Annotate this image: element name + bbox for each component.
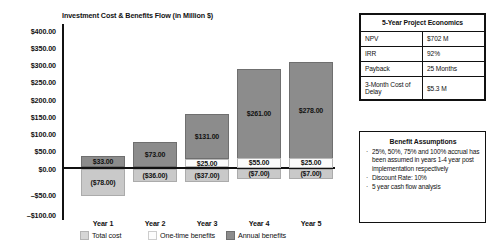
bar-segment-total-cost: ($7.00)	[289, 169, 333, 178]
bar-segment-total-cost: ($37.00)	[185, 169, 229, 182]
bar-segment-annual-benefits: $261.00	[237, 69, 281, 159]
bar-segment-annual-benefits: $131.00	[185, 114, 229, 159]
y-tick-label: $150.00	[0, 113, 56, 122]
bar-segment-one-time-benefits: $25.00	[185, 159, 229, 168]
table-cell-value: $702 M	[423, 32, 485, 47]
x-axis-label-year-2: Year 2	[126, 219, 184, 228]
bar-segment-total-cost: ($78.00)	[81, 169, 125, 196]
table-cell-key: Payback	[361, 62, 423, 77]
table-cell-value: 25 Months	[423, 62, 485, 77]
assumptions-title: Benefit Assumptions	[366, 138, 480, 145]
bar-segment-total-cost: ($7.00)	[237, 169, 281, 178]
y-tick-label: $200.00	[0, 96, 56, 105]
bar-segment-one-time-benefits: $55.00	[237, 158, 281, 168]
y-tick-label: $300.00	[0, 61, 56, 70]
y-axis-line	[62, 24, 64, 220]
x-axis-label-year-1: Year 1	[74, 219, 132, 228]
legend-swatch-one-time-benefits	[148, 231, 157, 240]
table-cell-value: 92%	[423, 47, 485, 62]
y-tick-label: $100.00	[0, 130, 56, 139]
table-cell-key: NPV	[361, 32, 423, 47]
assumption-text: Discount Rate: 10%	[372, 174, 480, 183]
legend-label-total-cost: Total cost	[92, 231, 121, 240]
y-tick-label: $400.00	[0, 27, 56, 36]
table-cell-key: 3-Month Cost of Delay	[361, 77, 423, 100]
legend-item-one-time-benefits: One-time benefits	[148, 231, 215, 240]
table-row: IRR 92%	[361, 47, 485, 62]
assumption-list-item: · Discount Rate: 10%	[366, 174, 480, 183]
chart-panel: Investment Cost & Benefits Flow (in Mill…	[0, 0, 350, 248]
assumption-list-item: · 25%, 50%, 75% and 100% accrual has bee…	[366, 148, 480, 174]
table-cell-key: IRR	[361, 47, 423, 62]
legend-item-total-cost: Total cost	[80, 231, 121, 240]
y-tick-label: $250.00	[0, 78, 56, 87]
bar-segment-annual-benefits: $33.00	[81, 156, 125, 167]
y-tick-label: $50.00	[0, 147, 56, 156]
table-row: 3-Month Cost of Delay $5.3 M	[361, 77, 485, 100]
y-tick-label: $0.00	[0, 165, 56, 174]
table-cell-value: $5.3 M	[423, 77, 485, 100]
legend-label-annual-benefits: Annual benefits	[238, 231, 286, 240]
y-tick-label: –$50.00	[0, 191, 56, 200]
y-tick-label: $350.00	[0, 44, 56, 53]
legend-label-one-time-benefits: One-time benefits	[160, 231, 215, 240]
x-axis-label-year-5: Year 5	[282, 219, 340, 228]
table-row: Payback 25 Months	[361, 62, 485, 77]
legend-swatch-total-cost	[80, 231, 89, 240]
bar-segment-annual-benefits: $73.00	[133, 142, 177, 167]
project-economics-table: 5-Year Project Economics NPV $702 M IRR …	[359, 13, 486, 101]
x-axis-label-year-3: Year 3	[178, 219, 236, 228]
benefit-assumptions-box: Benefit Assumptions · 25%, 50%, 75% and …	[359, 131, 486, 223]
x-axis-label-year-4: Year 4	[230, 219, 288, 228]
assumption-text: 5 year cash flow analysis	[372, 183, 480, 192]
chart-title: Investment Cost & Benefits Flow (in Mill…	[62, 11, 213, 20]
table-title: 5-Year Project Economics	[361, 15, 485, 32]
bar-segment-one-time-benefits: $25.00	[289, 158, 333, 168]
legend-swatch-annual-benefits	[226, 231, 235, 240]
table-header-row: 5-Year Project Economics	[361, 15, 485, 32]
assumption-list-item: · 5 year cash flow analysis	[366, 183, 480, 192]
table-row: NPV $702 M	[361, 32, 485, 47]
bar-segment-total-cost: ($36.00)	[133, 169, 177, 181]
y-tick-label: –$100.00	[0, 211, 56, 220]
bar-segment-annual-benefits: $278.00	[289, 62, 333, 158]
legend-item-annual-benefits: Annual benefits	[226, 231, 286, 240]
assumption-text: 25%, 50%, 75% and 100% accrual has been …	[372, 148, 480, 174]
